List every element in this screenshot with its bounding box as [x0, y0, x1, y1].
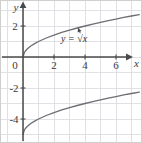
sqrt-function-graph-figure: x y 0 2 4 6 2 -2 -4 y = √x	[0, 0, 142, 143]
tick-label-origin: 0	[12, 59, 18, 71]
curve-equation-label: y = √x	[60, 33, 88, 44]
graph-canvas: x y 0 2 4 6 2 -2 -4 y = √x	[0, 0, 142, 143]
tick-label-x-2: 2	[51, 59, 57, 71]
x-axis-label: x	[133, 57, 139, 69]
tick-label-x-4: 4	[82, 59, 88, 71]
tick-label-y-neg4: -4	[9, 113, 19, 125]
tick-label-y-neg2: -2	[9, 82, 18, 94]
y-axis-label: y	[13, 1, 19, 13]
tick-label-x-6: 6	[113, 59, 119, 71]
tick-label-y-2: 2	[12, 20, 18, 32]
plot-background	[0, 0, 142, 143]
